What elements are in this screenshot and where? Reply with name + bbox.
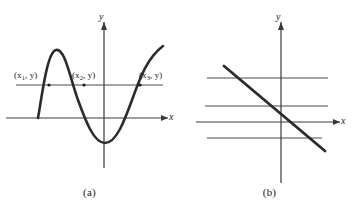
point-label-x1-sub: 1 xyxy=(22,74,25,81)
panel-b: y x (b) xyxy=(180,0,359,215)
y-axis-label-a: y xyxy=(99,11,103,22)
y-axis-arrow-b xyxy=(278,22,284,30)
point-label-x3-sub: 3 xyxy=(147,74,150,81)
point-label-x1-prefix: (x xyxy=(14,70,22,80)
y-axis-arrow-a xyxy=(101,22,107,30)
x-axis-label-b: x xyxy=(341,115,345,126)
point-label-x2-prefix: (x xyxy=(72,70,80,80)
x-axis-arrow-b xyxy=(333,119,340,125)
x-axis-label-a: x xyxy=(169,111,173,122)
intersection-point-x2 xyxy=(82,83,85,86)
y-axis-label-b: y xyxy=(276,11,280,22)
panel-a-graph xyxy=(0,0,179,215)
point-label-x1-suffix: , y) xyxy=(25,70,37,80)
point-label-x1: (x1, y) xyxy=(14,70,37,80)
panel-b-caption: (b) xyxy=(180,186,359,198)
point-label-x2-sub: 2 xyxy=(80,74,83,81)
point-label-x2-suffix: , y) xyxy=(83,70,95,80)
function-curve-a xyxy=(38,46,163,143)
figure-container: y x (x1, y) (x2, y) (x3, y) (a) y x (b) xyxy=(0,0,359,215)
panel-a-caption: (a) xyxy=(0,186,179,198)
point-label-x3-suffix: , y) xyxy=(150,70,162,80)
x-axis-arrow-a xyxy=(161,115,168,121)
panel-b-graph xyxy=(180,0,359,215)
panel-a: y x (x1, y) (x2, y) (x3, y) (a) xyxy=(0,0,179,215)
point-label-x3: (x3, y) xyxy=(139,70,162,80)
point-label-x3-prefix: (x xyxy=(139,70,147,80)
intersection-point-x3 xyxy=(138,83,141,86)
point-label-x2: (x2, y) xyxy=(72,70,95,80)
intersection-point-x1 xyxy=(47,83,50,86)
